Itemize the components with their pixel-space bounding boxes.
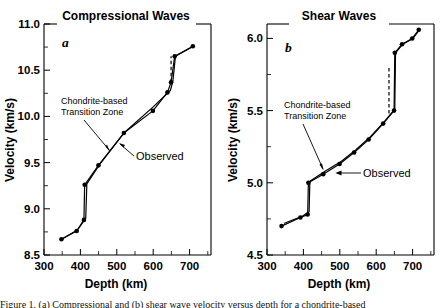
panel-b-ytick-5.0: 5.0 [247,177,263,189]
panel-a-xtick-600: 600 [144,260,163,272]
panel-b-chondrite-label-line1: Chondrite-based [284,100,351,110]
panel-a-observed-label: Observed [136,150,184,162]
figure-container: Compressional Waves a 11.0 10.5 10.0 9.5… [0,0,447,308]
panel-b-chondrite-arrowhead [320,164,324,171]
panel-a-observed-arrowhead [119,143,125,148]
panel-b-xtick-400: 400 [294,260,313,272]
panel-a-chondrite-label-line1: Chondrite-based [61,96,128,106]
panel-a-title: Compressional Waves [62,9,190,23]
y-axis-minor-ticks [44,47,48,232]
panel-a-ylabel: Velocity (km/s) [3,98,17,182]
data-point-marker [279,224,284,229]
panel-a-letter: a [62,35,69,50]
x-axis-major-ticks [44,249,190,255]
panel-a-xtick-400: 400 [71,260,90,272]
panel-b-letter: b [285,40,292,55]
panel-a-plot: Compressional Waves a 11.0 10.5 10.0 9.5… [0,0,223,308]
panel-a-xlabel: Depth (km) [85,277,148,291]
panel-a-xtick-700: 700 [180,260,199,272]
panel-b-observed-arrowhead [336,171,342,176]
panel-b-xtick-500: 500 [330,260,349,272]
panel-a-chondrite-label-line2: Transition Zone [61,107,123,117]
panel-shear-waves: Shear Waves b 6.0 5.5 5.0 4.5 300 400 50… [223,0,446,308]
panel-b-data-series [279,27,421,228]
panel-b-xtick-600: 600 [367,260,386,272]
x-axis-minor-ticks [62,251,208,255]
panel-b-ytick-5.5: 5.5 [247,105,264,117]
panel-a-ytick-9.5: 9.5 [24,157,41,169]
series-line [284,30,419,223]
panel-a-ytick-10.0: 10.0 [18,110,40,122]
panel-a-ytick-10.5: 10.5 [18,64,41,76]
panel-a-xtick-300: 300 [34,260,53,272]
panel-compressional-waves: Compressional Waves a 11.0 10.5 10.0 9.5… [0,0,223,308]
caption-text: Figure 1. (a) Compressional and (b) shea… [0,300,447,308]
panel-b-xtick-700: 700 [403,260,422,272]
panel-b-title: Shear Waves [302,9,377,23]
panel-a-chondrite-arrowhead [106,145,111,153]
series-line [282,30,419,226]
x-axis-major-ticks [267,249,413,255]
panel-b-xtick-300: 300 [257,260,276,272]
panel-a-xtick-500: 500 [107,260,126,272]
series-line [61,46,193,239]
panel-b-plot: Shear Waves b 6.0 5.5 5.0 4.5 300 400 50… [223,0,447,308]
panel-b-ylabel: Velocity (km/s) [226,98,240,182]
y-axis-minor-ticks [267,75,271,219]
panel-a-ytick-11.0: 11.0 [18,18,40,30]
panel-b-chondrite-leader [303,124,323,169]
caption-strip: Figure 1. (a) Compressional and (b) shea… [0,300,447,308]
panel-b-chondrite-label-line2: Transition Zone [284,111,346,121]
panel-b-observed-label: Observed [363,167,411,179]
panel-a-data-series [59,44,195,242]
x-axis-minor-ticks [285,251,431,255]
panel-b-ytick-6.0: 6.0 [247,32,263,44]
panel-a-ytick-9.0: 9.0 [24,203,40,215]
panel-b-xlabel: Depth (km) [308,277,371,291]
